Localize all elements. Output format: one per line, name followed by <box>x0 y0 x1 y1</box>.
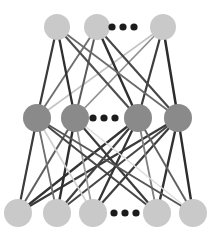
neuron-node-t3[interactable] <box>150 14 176 40</box>
edge-m3-t1 <box>57 27 138 118</box>
ellipsis-dot <box>130 23 137 30</box>
edge-m2-t2 <box>75 27 97 118</box>
ellipsis-dot <box>89 114 96 121</box>
ellipsis-dot <box>111 114 118 121</box>
neuron-node-b5[interactable] <box>179 199 207 227</box>
ellipsis-dot <box>100 114 107 121</box>
ellipsis-bottom-layer <box>110 209 139 216</box>
neural-network-canvas <box>0 0 211 234</box>
ellipsis-dot <box>119 23 126 30</box>
ellipsis-dot <box>132 209 139 216</box>
neuron-node-b2[interactable] <box>43 199 71 227</box>
ellipsis-dot <box>110 209 117 216</box>
neuron-node-b3[interactable] <box>79 199 107 227</box>
edge-b4-m1 <box>37 118 157 213</box>
edge-m1-t3 <box>37 27 163 118</box>
ellipsis-dot <box>121 209 128 216</box>
neuron-node-m3[interactable] <box>124 104 152 132</box>
neuron-node-m1[interactable] <box>23 104 51 132</box>
ellipsis-top-layer <box>108 23 137 30</box>
neuron-node-t2[interactable] <box>84 14 110 40</box>
ellipsis-middle-layer <box>89 114 118 121</box>
neuron-node-m4[interactable] <box>164 104 192 132</box>
neuron-node-b4[interactable] <box>143 199 171 227</box>
neuron-node-b1[interactable] <box>4 199 32 227</box>
neuron-node-m2[interactable] <box>61 104 89 132</box>
neuron-node-t1[interactable] <box>44 14 70 40</box>
neural-network-diagram <box>0 0 211 234</box>
ellipsis-dot <box>108 23 115 30</box>
